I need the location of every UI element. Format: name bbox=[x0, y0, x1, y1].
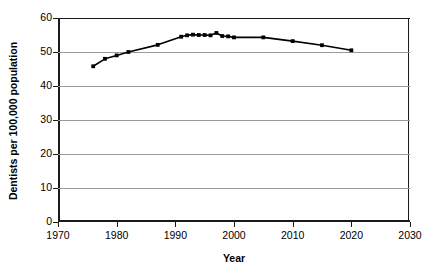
data-point-1976 bbox=[91, 64, 95, 68]
data-point-1997 bbox=[215, 31, 219, 35]
data-series-layer bbox=[0, 0, 426, 275]
chart-figure: Dentists per 100,000 population 01020304… bbox=[0, 0, 426, 275]
data-point-1992 bbox=[185, 33, 189, 37]
data-point-1978 bbox=[103, 57, 107, 61]
x-axis-title: Year bbox=[58, 252, 410, 264]
data-point-1982 bbox=[127, 50, 131, 54]
data-point-1980 bbox=[115, 54, 119, 58]
data-point-2015 bbox=[320, 43, 324, 47]
series-line bbox=[93, 33, 351, 66]
data-point-1987 bbox=[156, 43, 160, 47]
data-point-1991 bbox=[179, 35, 183, 39]
data-point-1993 bbox=[191, 33, 195, 37]
data-point-1999 bbox=[226, 34, 230, 38]
data-point-2000 bbox=[232, 35, 236, 39]
x-axis-title-text: Year bbox=[223, 252, 245, 264]
data-point-1998 bbox=[220, 34, 224, 38]
series-markers bbox=[91, 31, 353, 68]
data-point-2010 bbox=[291, 39, 295, 43]
data-point-2020 bbox=[349, 48, 353, 52]
data-point-1994 bbox=[197, 33, 201, 37]
data-point-2005 bbox=[261, 35, 265, 39]
data-point-1996 bbox=[209, 33, 213, 37]
data-point-1995 bbox=[203, 33, 207, 37]
